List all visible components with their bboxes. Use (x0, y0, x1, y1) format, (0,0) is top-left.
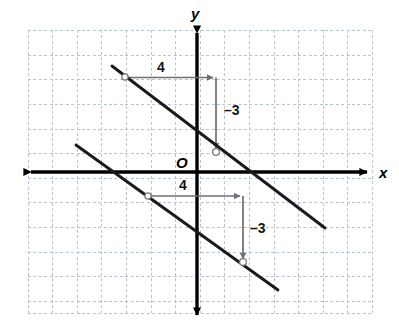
y-axis-label: y (191, 6, 199, 21)
x-axis-label: x (379, 165, 387, 180)
upper-line-point-start (122, 74, 128, 80)
lower-rise-label: –3 (250, 221, 266, 235)
coordinate-plane-canvas (0, 0, 399, 336)
upper-line-point-end (213, 149, 220, 156)
lower-line-point-end (240, 259, 247, 266)
upper-line (112, 66, 325, 228)
upper-rise-label: –3 (224, 103, 240, 117)
lower-run-label: 4 (179, 178, 187, 192)
origin-label: O (176, 155, 188, 170)
upper-run-label: 4 (157, 60, 165, 74)
lower-line-point-start (145, 193, 151, 199)
axes (31, 33, 367, 315)
graph-figure: y x O 4 –3 4 –3 (0, 0, 399, 336)
